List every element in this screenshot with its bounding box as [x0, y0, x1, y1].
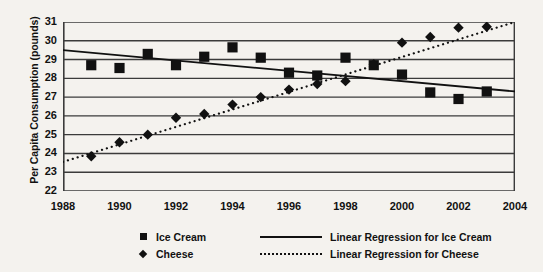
plot-area — [63, 22, 515, 191]
data-point-cheese — [256, 92, 266, 102]
y-tick-label: 24 — [31, 146, 57, 158]
data-point-cheese — [284, 84, 294, 94]
data-point-ice-cream — [256, 53, 266, 63]
data-point-ice-cream — [227, 42, 237, 52]
y-tick-label: 31 — [31, 15, 57, 27]
y-tick-label: 23 — [31, 165, 57, 177]
data-point-ice-cream — [199, 52, 209, 62]
legend-item-cheese: Cheese Linear Regression for Cheese — [130, 245, 492, 262]
diamond-marker-icon — [130, 251, 156, 257]
legend-label-cheese: Cheese — [156, 248, 252, 260]
data-point-ice-cream — [340, 53, 350, 63]
x-tick-label: 1996 — [266, 200, 312, 212]
y-tick-label: 26 — [31, 109, 57, 121]
data-point-cheese — [143, 129, 153, 139]
y-tick-label: 25 — [31, 128, 57, 140]
legend-label-regression-ice-cream: Linear Regression for Ice Cream — [330, 231, 492, 243]
data-point-ice-cream — [425, 87, 435, 97]
x-tick-label: 1994 — [210, 200, 256, 212]
x-tick-label: 2004 — [492, 200, 538, 212]
data-point-ice-cream — [86, 60, 96, 70]
data-point-cheese — [199, 109, 209, 119]
plot-svg — [63, 22, 515, 191]
x-tick-label: 1998 — [323, 200, 369, 212]
data-point-cheese — [171, 113, 181, 123]
x-tick-label: 2000 — [379, 200, 425, 212]
legend-label-ice-cream: Ice Cream — [156, 231, 252, 243]
x-tick-label: 1990 — [97, 200, 143, 212]
y-tick-label: 30 — [31, 34, 57, 46]
legend-label-regression-cheese: Linear Regression for Cheese — [330, 248, 479, 260]
legend-item-ice-cream: Ice Cream Linear Regression for Ice Crea… — [130, 228, 492, 245]
y-tick-label: 29 — [31, 53, 57, 65]
x-tick-label: 2002 — [436, 200, 482, 212]
data-point-ice-cream — [482, 86, 492, 96]
data-point-cheese — [340, 76, 350, 86]
y-tick-label: 22 — [31, 184, 57, 196]
x-tick-label: 1988 — [40, 200, 86, 212]
data-point-cheese — [453, 22, 463, 32]
dotted-line-swatch-icon — [252, 253, 330, 255]
chart-legend: Ice Cream Linear Regression for Ice Crea… — [130, 228, 492, 262]
data-point-cheese — [227, 99, 237, 109]
x-tick-label: 1992 — [153, 200, 199, 212]
y-tick-label: 28 — [31, 71, 57, 83]
solid-line-swatch-icon — [252, 236, 330, 238]
y-tick-label: 27 — [31, 90, 57, 102]
data-point-cheese — [397, 37, 407, 47]
data-point-ice-cream — [171, 60, 181, 70]
data-point-cheese — [86, 151, 96, 161]
data-point-ice-cream — [397, 69, 407, 79]
data-point-ice-cream — [284, 68, 294, 78]
data-point-ice-cream — [114, 63, 124, 73]
chart-figure: Per Capita Consumption (pounds) 22232425… — [0, 0, 543, 272]
square-marker-icon — [130, 233, 156, 240]
data-point-ice-cream — [453, 94, 463, 104]
data-point-ice-cream — [143, 49, 153, 59]
data-point-cheese — [482, 22, 492, 32]
